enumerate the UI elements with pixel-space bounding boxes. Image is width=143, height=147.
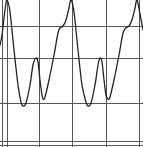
grid: [0, 0, 143, 147]
waveform-chart: [0, 0, 143, 147]
waveform-line: [0, 0, 143, 106]
